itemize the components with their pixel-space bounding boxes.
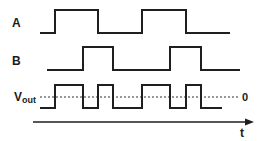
vout-label: Vout	[14, 90, 36, 105]
time-axis-label: t	[240, 126, 244, 140]
signal-b-waveform	[47, 47, 240, 70]
signal-a-waveform	[40, 10, 230, 33]
signal-b-label: B	[12, 54, 21, 68]
zero-label: 0	[242, 91, 248, 103]
time-axis-arrow-icon	[245, 119, 254, 126]
vout-waveform	[40, 85, 222, 108]
signal-a-label: A	[12, 16, 21, 30]
timing-diagram: A B Vout 0 t	[0, 0, 261, 141]
